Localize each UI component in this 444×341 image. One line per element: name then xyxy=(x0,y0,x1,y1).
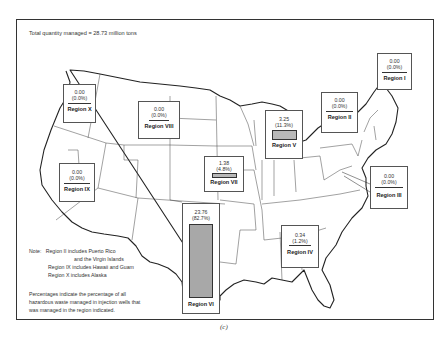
percentage-note-line: was managed in the region indicated. xyxy=(29,306,140,314)
region-ii-box: 0.00 (0.0%) Region II xyxy=(321,92,358,133)
region-x-box: 0.00 (0.0%) Region X xyxy=(63,84,96,123)
zero-bar-line xyxy=(375,187,403,188)
region-percent: (4.8%) xyxy=(205,166,243,173)
region-label: Region VI xyxy=(183,301,219,308)
region-viii-box: 0.00 (0.0%) Region VIII xyxy=(138,101,180,139)
region-inclusion-note: Note: Region II includes Puerto Rico and… xyxy=(29,247,134,279)
note-label: Note: xyxy=(29,248,41,254)
zero-bar-line xyxy=(326,111,353,112)
total-quantity-title: Total quantity managed = 28.73 million t… xyxy=(29,30,137,36)
region-percent: (0.0%) xyxy=(371,179,407,186)
region-iv-box: 0.34 (1.2%) Region IV xyxy=(281,225,319,268)
note-line: Region IX includes Hawaii and Guam xyxy=(29,263,134,271)
region-percent: (0.0%) xyxy=(322,103,357,110)
zero-bar-line xyxy=(68,103,91,104)
region-label: Region V xyxy=(266,142,302,149)
region-vi-box: 23.76 (82.7%) Region VI xyxy=(182,203,220,314)
region-label: Region X xyxy=(64,106,95,113)
region-percent: (0.0%) xyxy=(378,64,411,71)
region-v-box: 3.25 (11.3%) Region V xyxy=(265,110,303,159)
region-label: Region IX xyxy=(60,186,94,193)
region-vii-bar xyxy=(212,173,237,178)
note-line: Region II includes Puerto Rico xyxy=(46,248,116,254)
region-label: Region I xyxy=(378,75,411,82)
figure-caption: (c) xyxy=(220,323,228,331)
region-iii-box: 0.00 (0.0%) Region III xyxy=(370,166,408,209)
region-iv-bar xyxy=(289,245,311,246)
zero-bar-line xyxy=(382,72,407,73)
zero-bar-line xyxy=(64,183,90,184)
region-label: Region VII xyxy=(205,179,243,186)
percentage-note-line: Percentages indicate the percentage of a… xyxy=(29,290,140,298)
region-v-bar xyxy=(272,130,297,140)
region-percent: (82.7%) xyxy=(183,215,219,222)
region-percent: (0.0%) xyxy=(139,112,179,119)
region-percent: (0.0%) xyxy=(60,175,94,182)
region-label: Region VIII xyxy=(139,123,179,130)
region-percent: (11.3%) xyxy=(266,122,302,129)
zero-bar-line xyxy=(149,120,169,121)
region-label: Region II xyxy=(322,114,357,121)
percentage-note: Percentages indicate the percentage of a… xyxy=(29,290,140,314)
note-line: Region X includes Alaska xyxy=(29,271,134,279)
region-label: Region III xyxy=(371,192,407,199)
region-percent: (0.0%) xyxy=(64,95,95,102)
region-ix-box: 0.00 (0.0%) Region IX xyxy=(59,163,95,202)
region-i-box: 0.00 (0.0%) Region I xyxy=(377,53,412,90)
region-vi-bar xyxy=(189,224,213,298)
percentage-note-line: hazardous waste managed in injection wel… xyxy=(29,298,140,306)
region-vii-box: 1.38 (4.8%) Region VII xyxy=(204,156,244,192)
region-percent: (1.2%) xyxy=(282,238,318,245)
note-line: and the Virgin Islands xyxy=(29,255,134,263)
region-label: Region IV xyxy=(282,249,318,256)
